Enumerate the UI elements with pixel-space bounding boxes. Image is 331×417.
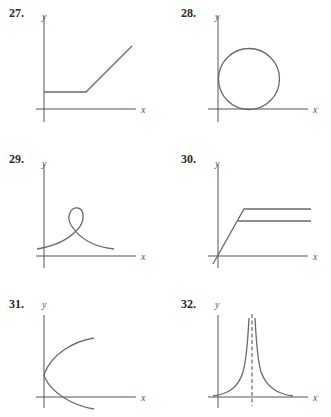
piecewise-curve (44, 46, 132, 92)
x-axis-label: x (140, 251, 146, 262)
y-axis-label: y (41, 11, 47, 22)
graph-32: y x (208, 299, 318, 408)
loop-curve (37, 208, 114, 249)
y-axis-label: y (41, 299, 47, 310)
graph-29: y x (36, 158, 146, 268)
x-axis-label: x (140, 392, 146, 403)
y-axis-label: y (214, 158, 220, 169)
right-branch (255, 318, 293, 396)
y-axis-label: y (214, 11, 220, 22)
circle-curve (219, 49, 280, 110)
graph-31: y x (36, 299, 146, 409)
x-axis-label: x (312, 104, 318, 115)
x-axis-label: x (312, 392, 318, 403)
graph-28: y x (208, 11, 318, 122)
graphs-canvas: y x y x y x y x y x y x (0, 0, 331, 417)
graph-30: y x (208, 158, 318, 268)
graph-27: y x (36, 11, 146, 122)
y-axis-label: y (41, 158, 47, 169)
parabola-curve (44, 338, 94, 409)
x-axis-label: x (140, 104, 146, 115)
x-axis-label: x (312, 251, 318, 262)
y-axis-label: y (214, 299, 220, 310)
